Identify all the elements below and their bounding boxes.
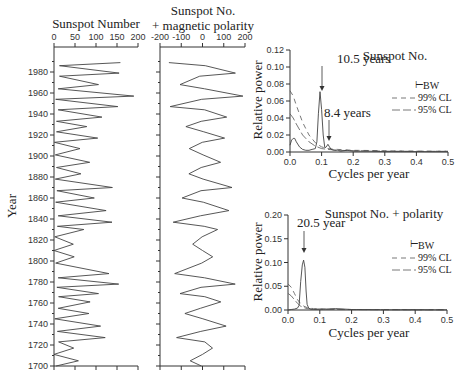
year-tick-label: 1800 [28, 256, 48, 266]
p4-xlabel: Cycles per year [329, 325, 411, 340]
year-tick-label: 1880 [28, 172, 48, 182]
year-tick-label: 1920 [28, 130, 48, 140]
year-tick-label: 1980 [28, 67, 48, 77]
year-tick-label: 1720 [28, 340, 48, 350]
x-tick-label: 0 [200, 32, 205, 42]
annotation-10-5-years: 10.5 years [337, 51, 390, 66]
p4-cl99-line [288, 284, 447, 310]
year-tick-label: 1840 [28, 214, 48, 224]
legend-bw: BW [418, 240, 435, 251]
y-tick-label: 0.00 [266, 147, 284, 157]
year-tick-label: 1900 [28, 151, 48, 161]
panel-sunspot-number: Sunspot Number 0501001502001700172017401… [4, 16, 146, 371]
year-tick-label: 1700 [28, 361, 48, 371]
x-tick-label: 200 [130, 32, 145, 42]
sunspot-number-line [54, 63, 134, 366]
x-tick-label: 0.2 [345, 315, 358, 325]
y-tick-label: 0.06 [266, 96, 284, 106]
legend-95: 95% CL [418, 264, 452, 275]
p3-xlabel: Cycles per year [329, 166, 411, 181]
sunspot-polarity-line [169, 63, 243, 366]
x-tick-label: 0.4 [409, 315, 422, 325]
y-tick-label: 0.00 [264, 305, 282, 315]
x-tick-label: 100 [88, 32, 103, 42]
x-tick-label: 0.5 [442, 157, 455, 167]
year-tick-label: 1940 [28, 109, 48, 119]
panel-spectrum-sunspot: 0.00.10.20.30.40.50.000.020.040.060.080.… [250, 45, 454, 181]
x-tick-label: 150 [109, 32, 124, 42]
year-tick-label: 1780 [28, 277, 48, 287]
y-tick-label: 0.10 [264, 258, 282, 268]
y-tick-label: 0.10 [266, 62, 284, 72]
legend-99: 99% CL [418, 92, 452, 103]
panel-sunspot-polarity: Sunspot No. + magnetic polarity -200-100… [151, 3, 254, 370]
panel2-title-line2: + magnetic polarity [152, 18, 254, 33]
y-tick-label: 0.20 [264, 210, 282, 220]
y-tick-label: 0.05 [264, 281, 282, 291]
legend-p4: ⊢ BW 99% CL 95% CL [392, 238, 452, 275]
x-tick-label: 100 [216, 32, 231, 42]
year-tick-label: 1760 [28, 298, 48, 308]
y-tick-label: 0.15 [264, 234, 282, 244]
x-tick-label: 0.1 [315, 157, 328, 167]
panel-spectrum-polarity: 0.00.10.20.30.40.50.000.050.100.150.20 S… [250, 206, 453, 340]
year-tick-label: 1820 [28, 235, 48, 245]
x-tick-label: -200 [151, 32, 169, 42]
arrow-head-icon [327, 136, 332, 141]
year-tick-label: 1740 [28, 319, 48, 329]
arrow-head-icon [320, 86, 325, 91]
p4-ylabel: Relative power [250, 222, 265, 302]
legend-95: 95% CL [418, 104, 452, 115]
x-tick-label: 0.0 [284, 157, 297, 167]
panel1-title: Sunspot Number [52, 16, 140, 31]
x-tick-label: 0.1 [314, 315, 327, 325]
x-tick-label: 50 [70, 32, 80, 42]
x-tick-label: 0 [51, 32, 56, 42]
legend-p3: ⊢ BW 99% CL 95% CL [392, 79, 452, 115]
x-tick-label: 0.4 [410, 157, 423, 167]
x-tick-label: 200 [237, 32, 252, 42]
legend-bw: BW [423, 80, 440, 91]
y-tick-label: 0.12 [266, 45, 284, 55]
x-tick-label: 0.3 [377, 315, 390, 325]
y-tick-label: 0.04 [266, 113, 284, 123]
panel2-title-line1: Sunspot No. [171, 3, 235, 18]
y-tick-label: 0.08 [266, 79, 284, 89]
year-tick-label: 1960 [28, 88, 48, 98]
year-tick-label: 1860 [28, 193, 48, 203]
p3-ylabel: Relative power [250, 60, 265, 140]
arrow-head-icon [302, 248, 307, 253]
x-tick-label: -100 [172, 32, 190, 42]
year-axis-label: Year [4, 193, 19, 218]
annotation-20-5-year: 20.5 year [297, 215, 346, 230]
p4-cl95-line [288, 293, 447, 309]
annotation-8-4-years: 8.4 years [324, 105, 371, 120]
x-tick-label: 0.5 [441, 315, 454, 325]
y-tick-label: 0.02 [266, 130, 284, 140]
legend-99: 99% CL [418, 252, 452, 263]
x-tick-label: 0.0 [282, 315, 295, 325]
sunspot-figure: Sunspot Number 0501001502001700172017401… [0, 0, 467, 385]
